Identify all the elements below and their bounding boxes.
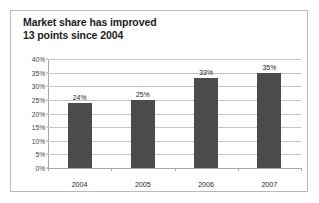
y-tick-mark (46, 127, 48, 128)
bar-2004: 24% (68, 103, 92, 168)
x-tick-mark (301, 168, 302, 171)
y-tick-mark (46, 72, 48, 73)
y-tick-mark (46, 154, 48, 155)
x-axis-label-2006: 2006 (198, 180, 214, 189)
bar-2005: 25% (131, 100, 155, 168)
x-tick-mark (111, 168, 112, 171)
y-axis-label-35%: 35% (32, 69, 45, 76)
x-axis-label-2005: 2005 (135, 180, 151, 189)
x-axis-label-2004: 2004 (72, 180, 88, 189)
x-tick-mark (175, 168, 176, 171)
bar-chart-plot-area: 0%5%10%15%20%25%30%35%40% 24%25%33%35% 2… (48, 59, 301, 168)
bar-2007: 35% (257, 73, 281, 168)
gridline-40% (48, 59, 301, 60)
bar-value-label-2005: 25% (136, 91, 150, 98)
y-axis-label-20%: 20% (32, 110, 45, 117)
y-tick-mark (46, 59, 48, 60)
y-axis-label-30%: 30% (32, 83, 45, 90)
y-tick-mark (46, 140, 48, 141)
y-axis-label-25%: 25% (32, 96, 45, 103)
y-tick-mark (46, 113, 48, 114)
chart-title: Market share has improved 13 points sinc… (23, 16, 283, 42)
y-tick-mark (46, 86, 48, 87)
bar-2006: 33% (194, 78, 218, 168)
bar-value-label-2006: 33% (199, 69, 213, 76)
x-tick-mark (238, 168, 239, 171)
y-axis-label-0%: 0% (35, 165, 45, 172)
y-tick-mark (46, 99, 48, 100)
chart-figure-frame: Market share has improved 13 points sinc… (10, 10, 308, 192)
y-axis-label-10%: 10% (32, 137, 45, 144)
y-axis-label-40%: 40% (32, 56, 45, 63)
y-axis-label-5%: 5% (35, 151, 45, 158)
bar-value-label-2007: 35% (263, 64, 277, 71)
bar-value-label-2004: 24% (73, 94, 87, 101)
x-axis-label-2007: 2007 (261, 180, 277, 189)
y-axis-label-15%: 15% (32, 124, 45, 131)
chart-title-line-1: Market share has improved (23, 16, 283, 29)
chart-title-line-2: 13 points since 2004 (23, 29, 283, 42)
x-tick-mark (48, 168, 49, 171)
